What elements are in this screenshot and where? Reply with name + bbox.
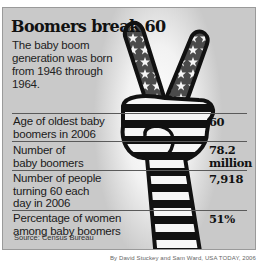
divider [12, 113, 247, 114]
middle-finger [167, 31, 208, 106]
infographic-panel: Boomers break 60 The baby boom generatio… [2, 7, 256, 250]
byline-credit: By David Stuckey and Sam Ward, USA TODAY… [110, 255, 256, 261]
forearm [147, 158, 203, 250]
stat-label-number-boomers: Number of baby boomers [13, 144, 153, 169]
divider [12, 141, 247, 142]
source-note: Source: Census Bureau [14, 233, 94, 242]
stat-value-number-boomers: 78.2 million [209, 144, 252, 169]
divider [12, 210, 247, 211]
stat-label-oldest-age: Age of oldest baby boomers in 2006 [13, 115, 153, 140]
stat-value-daily-sixty: 7,918 [209, 173, 243, 186]
stat-value-women-pct: 51% [209, 213, 235, 226]
stat-label-daily-sixty: Number of people turning 60 each day in … [13, 172, 153, 210]
divider [12, 170, 247, 171]
intro-text: The baby boom generation was born from 1… [12, 39, 122, 91]
stat-value-oldest-age: 60 [209, 116, 224, 129]
infographic-title: Boomers break 60 [11, 17, 165, 36]
